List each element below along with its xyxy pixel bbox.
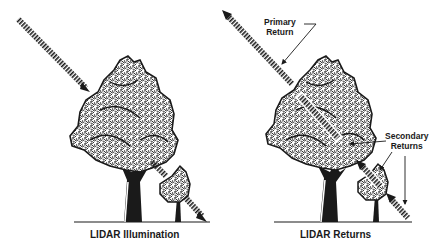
caption-returns: LIDAR Returns — [300, 229, 371, 240]
large-tree-canopy — [70, 56, 178, 172]
primary-return-label-line2: Return — [264, 27, 296, 37]
secondary-returns-label-line2: Returns — [385, 141, 428, 151]
primary-return-label-line1: Primary — [264, 17, 296, 27]
laser-beam-incoming — [18, 19, 86, 88]
caption-illumination: LIDAR Illumination — [90, 229, 179, 240]
panel-illumination — [18, 19, 210, 222]
secondary-returns-label-line1: Secondary — [385, 131, 428, 141]
lidar-diagram: Primary Return Secondary Returns LIDAR I… — [0, 0, 444, 252]
panel-returns — [222, 10, 412, 222]
secondary-returns-label: Secondary Returns — [385, 131, 428, 151]
primary-return-label: Primary Return — [264, 17, 296, 37]
secondary-return-pointer-small-tree — [380, 152, 392, 170]
